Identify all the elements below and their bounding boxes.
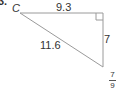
fraction-numerator: 7	[110, 71, 114, 79]
hypotenuse-label: 11.6	[40, 40, 61, 51]
vertex-label: C	[12, 3, 20, 14]
answer-fraction: 7 9	[109, 71, 116, 90]
triangle-diagram: 3. C 9.3 11.6 7 7 9	[0, 0, 117, 98]
hypotenuse-line	[20, 13, 103, 67]
fraction-denominator: 9	[110, 82, 114, 90]
problem-number: 3.	[0, 0, 7, 7]
side-right-label: 7	[104, 34, 110, 45]
side-top-label: 9.3	[56, 2, 71, 13]
right-angle-marker-icon	[96, 13, 103, 20]
